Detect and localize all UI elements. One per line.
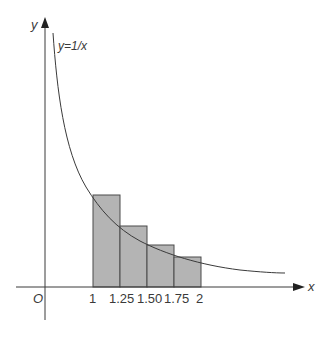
- x-tick-1-25: 1.25: [109, 291, 134, 306]
- y-axis-arrow-icon: [41, 17, 49, 28]
- x-axis-label: x: [308, 279, 315, 294]
- rect-1: [93, 195, 120, 287]
- rect-3: [147, 245, 174, 287]
- rect-4: [174, 257, 201, 287]
- y-axis-label: y: [31, 17, 38, 32]
- x-tick-1: 1: [89, 291, 96, 306]
- curve-1-over-x: [53, 33, 285, 273]
- curve-label: y=1/x: [58, 39, 87, 53]
- upper-sum-rectangles: [93, 195, 201, 287]
- origin-label: O: [33, 291, 43, 306]
- x-axis-arrow-icon: [293, 283, 305, 291]
- rect-2: [120, 226, 147, 287]
- x-tick-1-75: 1.75: [164, 291, 189, 306]
- x-tick-1-50: 1.50: [137, 291, 162, 306]
- chart-canvas: [0, 0, 325, 341]
- x-tick-2: 2: [196, 291, 203, 306]
